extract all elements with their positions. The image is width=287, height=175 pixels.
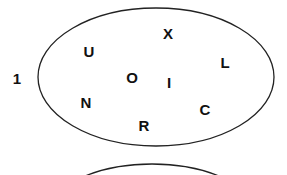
set-1-letters: XULOINCR [81,25,230,134]
letter-l: L [220,54,229,71]
letter-u: U [84,43,95,60]
letter-r: R [139,117,150,134]
set-2-ellipse [34,164,270,175]
set-1-ellipse [38,8,274,146]
letter-n: N [81,94,92,111]
letter-c: C [200,101,211,118]
letter-i: I [167,74,171,91]
letter-o: O [126,69,138,86]
set-1-label: 1 [13,70,21,87]
letter-x: X [163,25,173,42]
venn-diagram: 1 XULOINCR [0,0,287,175]
